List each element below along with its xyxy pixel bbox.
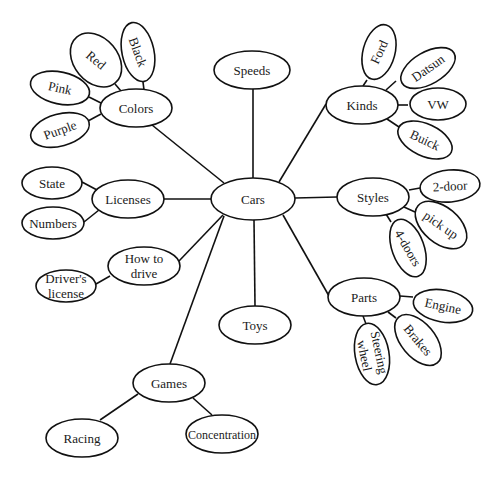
node-label: Speeds <box>234 63 271 78</box>
node-purple: Purple <box>27 107 93 153</box>
node-concentration: Concentration <box>186 415 258 453</box>
edge-cars-games <box>170 216 224 364</box>
node-games: Games <box>133 364 205 402</box>
node-label: State <box>39 176 65 191</box>
edge-licenses-numbers <box>84 210 99 222</box>
edge-games-racing <box>100 394 138 420</box>
node-buick: Buick <box>392 113 458 167</box>
node-drivers-license: Driver'slicense <box>36 270 96 302</box>
node-label: Concentration <box>188 428 256 442</box>
node-toys: Toys <box>219 306 291 344</box>
node-numbers: Numbers <box>22 207 84 239</box>
edge-games-concentration <box>193 398 212 415</box>
node-label: Racing <box>64 431 101 446</box>
node-two-door: 2-door <box>419 167 482 204</box>
node-label: Driver'slicense <box>45 271 86 301</box>
node-label: Toys <box>242 318 267 333</box>
node-label: Styles <box>357 190 389 205</box>
diagram-canvas: CarsSpeedsToysColorsBlackRedPinkPurpleKi… <box>0 0 501 477</box>
node-label: Numbers <box>29 216 77 231</box>
node-label: 2-door <box>432 178 468 195</box>
node-ford: Ford <box>356 21 401 83</box>
node-label: VW <box>427 97 449 112</box>
edge-cars-toys <box>254 220 255 306</box>
node-state: State <box>22 167 82 199</box>
node-label: Licenses <box>105 192 150 207</box>
edge-kinds-datsun <box>386 81 396 90</box>
edge-cars-parts <box>283 215 329 296</box>
edge-parts-engine <box>400 296 413 297</box>
node-cars: Cars <box>211 178 295 220</box>
node-label: Colors <box>119 101 154 116</box>
node-steering-wheel: Steeringwheel <box>350 321 394 388</box>
edge-cars-styles <box>295 197 337 198</box>
edge-cars-kinds <box>279 104 326 182</box>
edge-kinds-buick <box>387 119 399 127</box>
edge-styles-two-door <box>409 188 420 190</box>
edge-how-to-drive-drivers-license <box>96 276 110 284</box>
node-vw: VW <box>410 88 466 120</box>
edge-parts-steering-wheel <box>363 316 366 324</box>
edge-colors-red <box>115 84 121 91</box>
edge-kinds-ford <box>363 80 367 86</box>
node-racing: Racing <box>46 419 118 457</box>
node-kinds: Kinds <box>326 86 398 124</box>
node-how-to-drive: How todrive <box>108 247 180 285</box>
edge-licenses-state <box>82 182 97 190</box>
node-label: Games <box>151 376 187 391</box>
node-black: Black <box>116 19 160 84</box>
node-colors: Colors <box>100 89 172 127</box>
concept-web-diagram: CarsSpeedsToysColorsBlackRedPinkPurpleKi… <box>0 0 501 477</box>
edge-cars-colors <box>152 125 224 183</box>
edge-parts-brakes <box>388 312 396 318</box>
node-speeds: Speeds <box>214 51 290 89</box>
node-label: Parts <box>351 290 377 305</box>
node-parts: Parts <box>328 278 400 316</box>
edge-colors-purple <box>88 114 101 121</box>
edge-colors-pink <box>89 97 101 103</box>
node-label: Cars <box>241 192 265 207</box>
node-label: Kinds <box>346 98 377 113</box>
node-layer: CarsSpeedsToysColorsBlackRedPinkPurpleKi… <box>22 19 481 457</box>
edge-styles-pick-up <box>404 207 415 212</box>
node-styles: Styles <box>337 178 409 216</box>
node-licenses: Licenses <box>92 180 164 218</box>
